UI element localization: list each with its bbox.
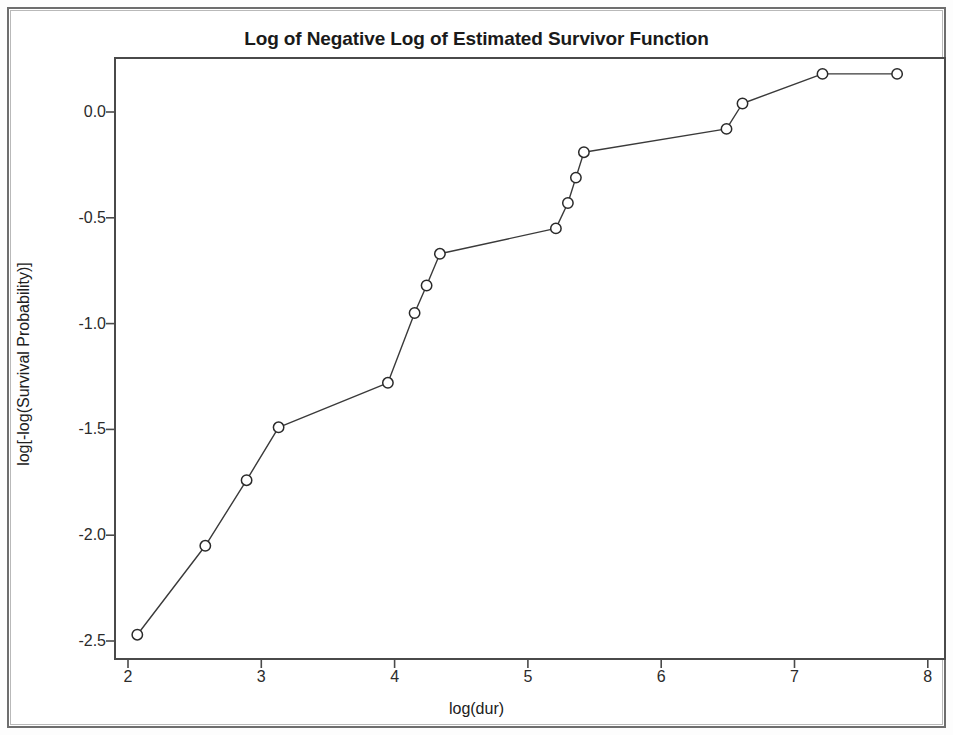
y-tick-label: -2.0 xyxy=(60,526,106,544)
x-axis-title: log(dur) xyxy=(0,700,953,718)
x-tick-label: 8 xyxy=(908,668,948,686)
scanned-figure-page: Log of Negative Log of Estimated Survivo… xyxy=(0,0,953,735)
x-tick-label: 7 xyxy=(775,668,815,686)
x-tick-label: 2 xyxy=(108,668,148,686)
y-tick-label: -1.5 xyxy=(60,420,106,438)
y-axis-title: log[-log(Survival Probability)] xyxy=(15,154,33,574)
plot-area-frame xyxy=(114,57,946,660)
x-tick-label: 4 xyxy=(375,668,415,686)
y-tick-label: -1.0 xyxy=(60,315,106,333)
y-axis-tick-labels: 0.0-0.5-1.0-1.5-2.0-2.5 xyxy=(46,0,106,735)
y-tick-label: -0.5 xyxy=(60,209,106,227)
y-tick-label: 0.0 xyxy=(60,103,106,121)
x-tick-label: 6 xyxy=(641,668,681,686)
chart-title: Log of Negative Log of Estimated Survivo… xyxy=(0,28,953,50)
x-tick-label: 5 xyxy=(508,668,548,686)
x-tick-label: 3 xyxy=(241,668,281,686)
y-tick-label: -2.5 xyxy=(60,632,106,650)
